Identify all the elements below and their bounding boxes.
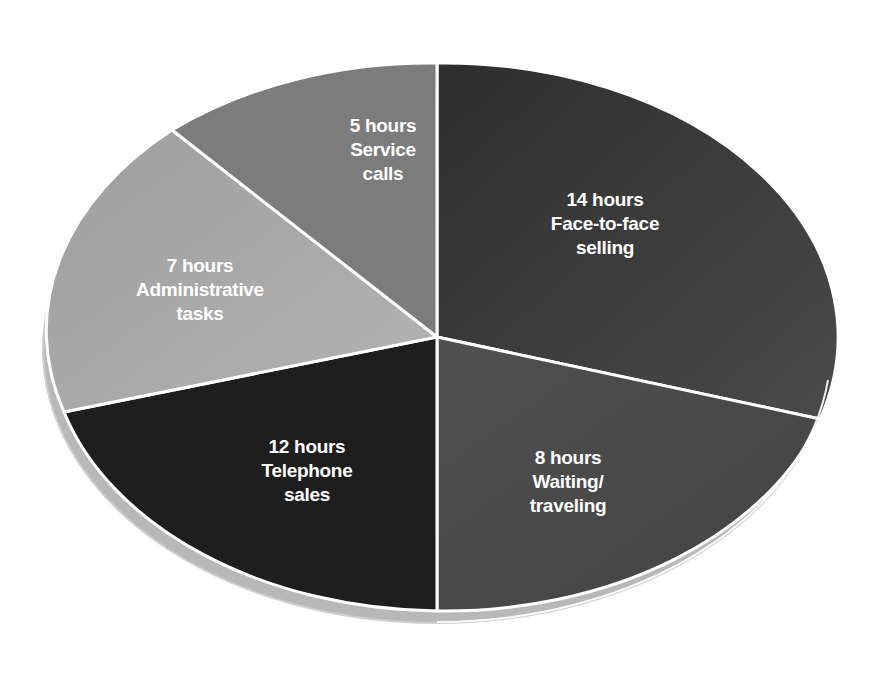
label-value: 12 hours [262, 435, 353, 459]
label-service-calls: 5 hours Service calls [350, 114, 417, 186]
label-line2: calls [350, 162, 417, 186]
label-line2: sales [262, 483, 353, 507]
label-line2: selling [551, 236, 659, 260]
pie-chart [0, 0, 874, 673]
label-line2: tasks [136, 302, 264, 326]
label-waiting-traveling: 8 hours Waiting/ traveling [530, 446, 607, 518]
label-line2: traveling [530, 494, 607, 518]
label-line1: Service [350, 138, 417, 162]
label-administrative-tasks: 7 hours Administrative tasks [136, 254, 264, 326]
label-line1: Administrative [136, 278, 264, 302]
label-line1: Face-to-face [551, 212, 659, 236]
label-face-to-face-selling: 14 hours Face-to-face selling [551, 188, 659, 260]
label-value: 8 hours [530, 446, 607, 470]
pie-slices [46, 63, 838, 611]
label-telephone-sales: 12 hours Telephone sales [262, 435, 353, 507]
label-value: 14 hours [551, 188, 659, 212]
label-value: 5 hours [350, 114, 417, 138]
label-line1: Waiting/ [530, 470, 607, 494]
label-value: 7 hours [136, 254, 264, 278]
label-line1: Telephone [262, 459, 353, 483]
